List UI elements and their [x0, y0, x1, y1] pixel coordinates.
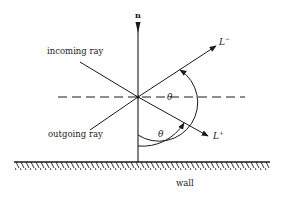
- reflection-diagram: n incoming ray outgoing ray L− L+ θ θ wa…: [0, 0, 284, 197]
- normal-label: n: [135, 10, 141, 20]
- theta-lower-label: θ: [158, 129, 164, 139]
- theta-arc-large: [138, 70, 198, 141]
- origin-point: [136, 95, 139, 98]
- outgoing-ray-label: outgoing ray: [48, 129, 103, 139]
- normal-vector: [136, 22, 141, 162]
- l-minus-label: L−: [218, 35, 230, 47]
- outgoing-ray-line: [90, 97, 138, 130]
- wall: [14, 162, 270, 170]
- wall-label: wall: [176, 178, 194, 188]
- l-minus-ray: [138, 46, 216, 97]
- arrow-down-icon: [136, 22, 141, 33]
- l-plus-label: L+: [212, 129, 224, 141]
- theta-upper-label: θ: [167, 92, 173, 102]
- incoming-ray-label: incoming ray: [47, 46, 104, 56]
- incoming-ray-line: [80, 62, 138, 97]
